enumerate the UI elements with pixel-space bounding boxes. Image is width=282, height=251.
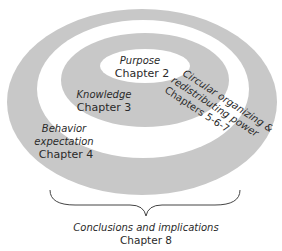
behavior-chapter: Chapter 4 [39,148,93,161]
behavior-title-line1: Behavior [42,123,87,134]
center-chapter: Chapter 2 [115,67,169,80]
middle-ring-chapter: Chapter 3 [77,101,131,114]
behavior-title-line2: expectation [34,136,93,147]
middle-ring-title: Knowledge [77,89,132,100]
footer-chapter: Chapter 8 [120,234,172,246]
concentric-rings-diagram: Purpose Chapter 2 Knowledge Chapter 3 Be… [0,0,282,251]
center-title: Purpose [120,55,160,66]
footer-title: Conclusions and implications [73,222,218,233]
